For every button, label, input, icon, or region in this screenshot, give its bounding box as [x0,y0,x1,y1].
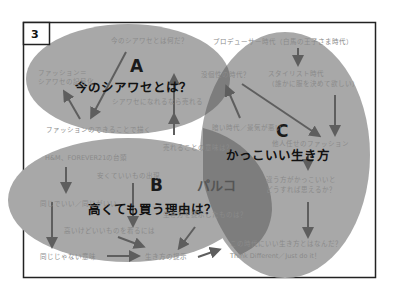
note: 安くていいもの出現 [97,171,160,180]
circle-a-letter: A [130,56,144,76]
note: Think Different／Just do it！ [229,252,321,260]
note: シアワセの記号化 [38,77,94,86]
note: 同じでいい／同じがいい [40,199,117,208]
note: 同じじゃない意味 [40,252,96,261]
note: この時代にいい生き方とはなんだ？ [230,239,342,248]
note: スタイリスト時代 [268,69,324,78]
note-overlap-a-c: 没個性の時代？ [201,70,250,79]
note-overlap-b-c: 生き方を提示したものは？ [163,210,247,219]
note: プロデューサー時代（白馬の王子さま時代） [213,37,353,46]
note: ファッション＝ [38,69,87,77]
note: ファッションのできることで描く [46,125,151,134]
note: 生き方の提示 [145,252,187,261]
note: H&M、FOREVER21の台頭 [45,153,127,162]
venn-diagram: 3 A B C 今のシアワセとは？ 高くても買う理由は？ かっこいい生き方 今の… [0,0,396,295]
note: 高いけどいいものを着るには [64,226,155,235]
circle-c-title: かっこいい生き方 [226,148,330,163]
panel-number: 3 [31,28,39,41]
note: シアワセになれるなら売れる [112,97,203,106]
note-overlap-a-c-low: 暗い時代／景気が悪い [212,123,282,132]
note-overlap-a-b: 売れることの意味は？ [163,143,233,152]
note: 違う方がかっこいいと [266,175,336,184]
note: 今のシアワセとは何だ？ [111,36,188,45]
parco-label: パルコ [197,178,236,193]
note: どうすれば思えるか？ [266,185,336,194]
note: 他人任せのファッション [272,139,349,148]
note: （誰かに服を決めて欲しい） [268,79,359,88]
